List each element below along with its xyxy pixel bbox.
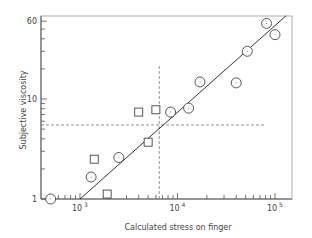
circle-marker-center [275, 34, 276, 35]
circle-marker-center [118, 157, 119, 158]
square-marker [144, 138, 152, 146]
x-tick-label: 10 [267, 204, 277, 213]
circle-marker-center [266, 23, 267, 24]
circle-marker-center [188, 108, 189, 109]
circle-marker-center [170, 112, 171, 113]
x-tick-label: 10 [72, 204, 82, 213]
square-marker [103, 190, 111, 198]
x-tick-exponent: 3 [84, 201, 88, 208]
y-tick-label: 10 [27, 95, 37, 104]
x-axis-label: Calculated stress on finger [124, 223, 232, 232]
fit-line [80, 16, 286, 199]
reference-lines [41, 66, 265, 199]
y-tick-label: 60 [27, 17, 37, 26]
circle-marker-center [199, 81, 200, 82]
circle-marker-center [247, 51, 248, 52]
circle-marker-center [50, 199, 51, 200]
x-tick-label: 10 [169, 204, 179, 213]
square-marker [90, 155, 98, 163]
circle-marker-center [91, 176, 92, 177]
data-points [46, 18, 280, 204]
chart: 11060103104105 Calculated stress on fing… [0, 0, 312, 238]
x-tick-exponent: 4 [182, 201, 186, 208]
regression-line [80, 16, 286, 199]
x-tick-exponent: 5 [279, 201, 283, 208]
y-axis-label: Subjective viscosity [19, 70, 28, 149]
square-marker [135, 108, 143, 116]
circle-marker-center [236, 82, 237, 83]
y-tick-label: 1 [32, 195, 37, 204]
square-marker [152, 106, 160, 114]
